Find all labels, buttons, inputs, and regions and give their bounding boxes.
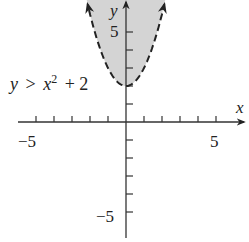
y-axis-label: y — [108, 1, 118, 20]
x-axis-label: x — [235, 98, 244, 117]
inequality-label: y > x2 + 2 — [8, 67, 88, 94]
y-tick-label-5: 5 — [110, 22, 119, 41]
y-tick-label-neg5: −5 — [96, 207, 114, 226]
x-tick-label-5: 5 — [210, 132, 219, 151]
x-tick-label-neg5: −5 — [18, 132, 36, 151]
inequality-graph: y x −5 5 5 −5 y > x2 + 2 — [0, 0, 249, 242]
